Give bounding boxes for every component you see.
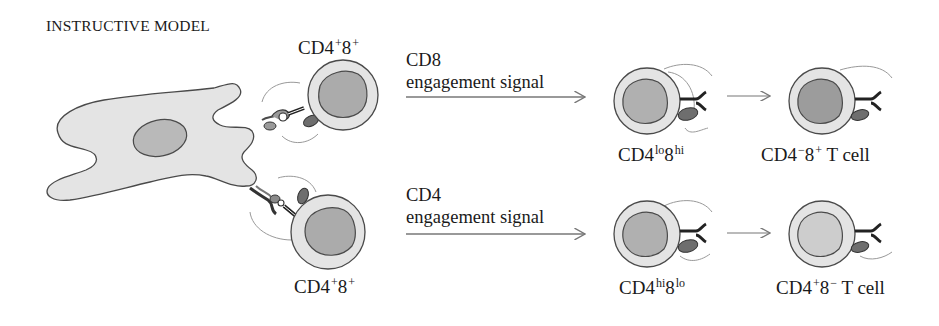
top-intermediate-cell [614, 64, 712, 134]
label-sup: lo [676, 276, 685, 290]
label-mid: 8 [820, 277, 830, 298]
label-mid: 8 [338, 276, 348, 297]
label-mid: 8 [665, 277, 675, 298]
top-signal-label: CD8 engagement signal [406, 49, 544, 93]
label-base: CD4 [298, 37, 334, 58]
label-sup: + [813, 276, 820, 290]
bottom-start-cell-label: CD4+8+ [294, 276, 355, 296]
bottom-signal-label: CD4 engagement signal [406, 184, 544, 228]
signal-name: CD8 [406, 49, 544, 71]
label-mid: 8 [805, 144, 815, 165]
label-base: CD4 [619, 277, 655, 298]
bottom-final-label: CD4+8− T cell [776, 277, 885, 297]
label-mid: 8 [342, 37, 352, 58]
label-sup: + [348, 275, 355, 289]
signal-description: engagement signal [406, 206, 544, 228]
label-sup: hi [675, 143, 684, 157]
top-final-label: CD4−8+ T cell [761, 144, 870, 164]
label-sup: − [830, 276, 837, 290]
bottom-intermediate-cell [614, 201, 712, 267]
bottom-intermediate-label: CD4hi8lo [619, 277, 685, 297]
label-base: CD4 [294, 276, 330, 297]
label-sup: hi [656, 276, 665, 290]
top-final-cell [789, 66, 892, 134]
label-suffix: T cell [822, 144, 870, 165]
antigen-presenting-cell [47, 84, 256, 201]
signal-description: engagement signal [406, 71, 544, 93]
label-base: CD4 [776, 277, 812, 298]
top-start-cell-label: CD4+8+ [298, 37, 359, 57]
label-sup: + [815, 143, 822, 157]
label-sup: − [798, 143, 805, 157]
bottom-final-cell [789, 201, 892, 267]
label-base: CD4 [618, 144, 654, 165]
label-sup: lo [655, 143, 664, 157]
label-base: CD4 [761, 144, 797, 165]
label-mid: 8 [664, 144, 674, 165]
top-double-positive-cell [308, 60, 378, 130]
label-sup: + [335, 36, 342, 50]
label-sup: + [352, 36, 359, 50]
bottom-double-positive-cell [291, 195, 365, 269]
label-suffix: T cell [837, 277, 885, 298]
label-sup: + [331, 275, 338, 289]
top-intermediate-label: CD4lo8hi [618, 144, 684, 164]
signal-name: CD4 [406, 184, 544, 206]
